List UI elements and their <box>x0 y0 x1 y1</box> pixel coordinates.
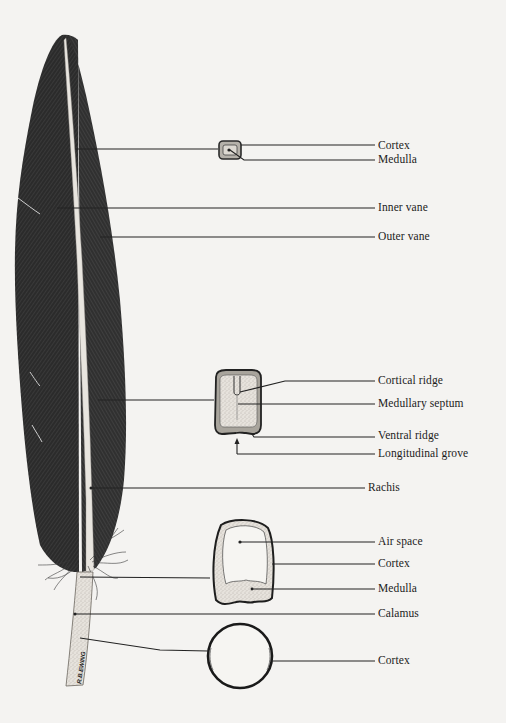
label-outer-vane: Outer vane <box>378 231 430 243</box>
rachis-pointer-dot <box>90 487 93 490</box>
feather-illustration: R.B.EWING <box>15 35 128 686</box>
mid-rachis-section <box>215 370 261 434</box>
label-medulla-proximal: Medulla <box>378 583 417 595</box>
label-calamus: Calamus <box>378 608 419 620</box>
label-air-space: Air space <box>378 536 423 548</box>
calamus-pointer-dot <box>74 613 77 616</box>
label-cortex-calamus: Cortex <box>378 655 410 667</box>
label-rachis: Rachis <box>368 482 400 494</box>
feather-diagram: R.B.EWING <box>0 0 506 723</box>
proximal-rachis-section <box>213 520 273 604</box>
label-medulla-distal: Medulla <box>378 154 417 166</box>
label-cortex-distal: Cortex <box>378 140 410 152</box>
arrow-head-icon <box>235 438 240 444</box>
label-cortex-proximal: Cortex <box>378 558 410 570</box>
calamus-section <box>208 624 272 688</box>
label-inner-vane: Inner vane <box>378 202 428 214</box>
label-medullary-septum: Medullary septum <box>378 398 464 410</box>
label-ventral-ridge: Ventral ridge <box>378 430 439 442</box>
label-cortical-ridge: Cortical ridge <box>378 375 443 387</box>
label-longitudinal-grove: Longitudinal grove <box>378 448 468 460</box>
